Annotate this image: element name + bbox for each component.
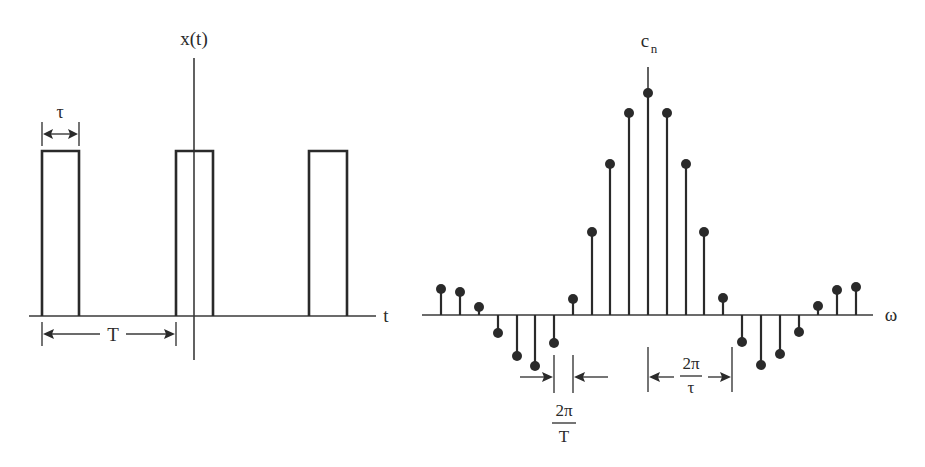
- coefficient-dot: [775, 349, 785, 359]
- coefficient-dot: [737, 337, 747, 347]
- coefficient-dot: [851, 282, 861, 292]
- coefficient-dot: [493, 328, 503, 338]
- null-width-dimension: 2π τ: [648, 347, 732, 397]
- spectrum-panel: c n ω 2π T 2π: [422, 30, 897, 446]
- tau-dimension: τ: [42, 102, 79, 146]
- coefficient-dot: [718, 293, 728, 303]
- x-of-t-label: x(t): [180, 28, 207, 50]
- coefficient-dot: [605, 159, 615, 169]
- tau-label: τ: [56, 102, 63, 122]
- omega-axis-label: ω: [885, 304, 898, 325]
- coefficient-dot: [832, 285, 842, 295]
- coefficient-dot: [436, 284, 446, 294]
- fourier-diagram: x(t) t τ T: [0, 0, 925, 467]
- coefficient-dot: [662, 108, 672, 118]
- coefficient-dot: [530, 361, 540, 371]
- pulse-train-panel: x(t) t τ T: [29, 28, 389, 360]
- coefficient-dot: [474, 302, 484, 312]
- coefficient-dot: [624, 108, 634, 118]
- period-label: T: [107, 324, 119, 345]
- coefficient-dot: [699, 227, 709, 237]
- t-axis-label: t: [383, 305, 389, 326]
- pulse-1: [42, 151, 79, 316]
- coefficient-dot: [643, 88, 653, 98]
- coefficient-dot: [681, 159, 691, 169]
- period-dimension: T: [42, 322, 176, 346]
- null-width-denominator: τ: [688, 378, 695, 397]
- spacing-denominator: T: [559, 427, 570, 446]
- coefficient-dot: [813, 301, 823, 311]
- coefficient-dot: [549, 338, 559, 348]
- spacing-numerator: 2π: [555, 401, 573, 420]
- null-width-numerator: 2π: [682, 354, 700, 373]
- coefficient-dot: [587, 227, 597, 237]
- spectral-lines: [436, 88, 861, 371]
- coefficient-dot: [794, 327, 804, 337]
- coefficient-dot: [512, 351, 522, 361]
- cn-label: c: [641, 30, 649, 51]
- cn-subscript: n: [651, 41, 658, 56]
- coefficient-dot: [455, 287, 465, 297]
- pulse-3: [309, 151, 347, 316]
- coefficient-dot: [756, 360, 766, 370]
- coefficient-dot: [568, 294, 578, 304]
